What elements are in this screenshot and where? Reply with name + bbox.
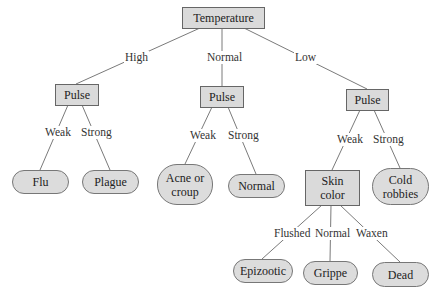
node-label-line1: Skin [321, 174, 343, 188]
leaf-label: Grippe [314, 266, 347, 280]
node-temperature: Temperature [182, 7, 265, 29]
leaf-grippe: Grippe [303, 261, 358, 285]
leaf-label: Normal [238, 179, 275, 193]
leaf-label: Epizootic [240, 264, 286, 278]
leaf-label-line1: Cold [389, 173, 412, 187]
leaf-label-line1: Acne or [166, 171, 204, 185]
tree-edges [0, 0, 434, 303]
leaf-epizootic: Epizootic [233, 259, 293, 283]
edge-label-normal: Normal [206, 51, 243, 64]
node-label: Pulse [209, 90, 235, 104]
edge-label-normal-skin: Normal [314, 227, 351, 240]
leaf-cold-robbies: Cold robbies [372, 168, 429, 205]
edge-label-low: Low [294, 51, 317, 64]
edge-label-high: High [124, 51, 149, 64]
node-skin-color: Skin color [305, 170, 360, 206]
node-label: Pulse [64, 88, 90, 102]
edge-label-strong: Strong [80, 126, 113, 139]
edge-label-weak: Weak [336, 133, 364, 146]
node-label: Temperature [193, 11, 253, 25]
node-pulse-high: Pulse [55, 84, 99, 106]
leaf-flu: Flu [12, 170, 69, 194]
node-label: Pulse [354, 93, 380, 107]
leaf-label-line2: croup [171, 185, 198, 199]
edge-label-waxen: Waxen [355, 227, 389, 240]
leaf-dead: Dead [372, 262, 429, 287]
edge-label-weak: Weak [44, 126, 72, 139]
node-pulse-normal: Pulse [200, 86, 244, 108]
leaf-normal: Normal [228, 174, 285, 198]
node-pulse-low: Pulse [346, 89, 389, 111]
leaf-acne-or-croup: Acne or croup [157, 164, 213, 205]
leaf-label: Plague [94, 175, 127, 189]
node-label-line2: color [320, 188, 345, 202]
edge-label-weak: Weak [189, 129, 217, 142]
leaf-label-line2: robbies [383, 187, 418, 201]
edge-label-flushed: Flushed [273, 227, 311, 240]
edge-label-strong: Strong [372, 133, 405, 146]
leaf-label: Flu [32, 175, 48, 189]
leaf-label: Dead [388, 268, 413, 282]
edge-label-strong: Strong [227, 129, 260, 142]
leaf-plague: Plague [82, 170, 139, 194]
